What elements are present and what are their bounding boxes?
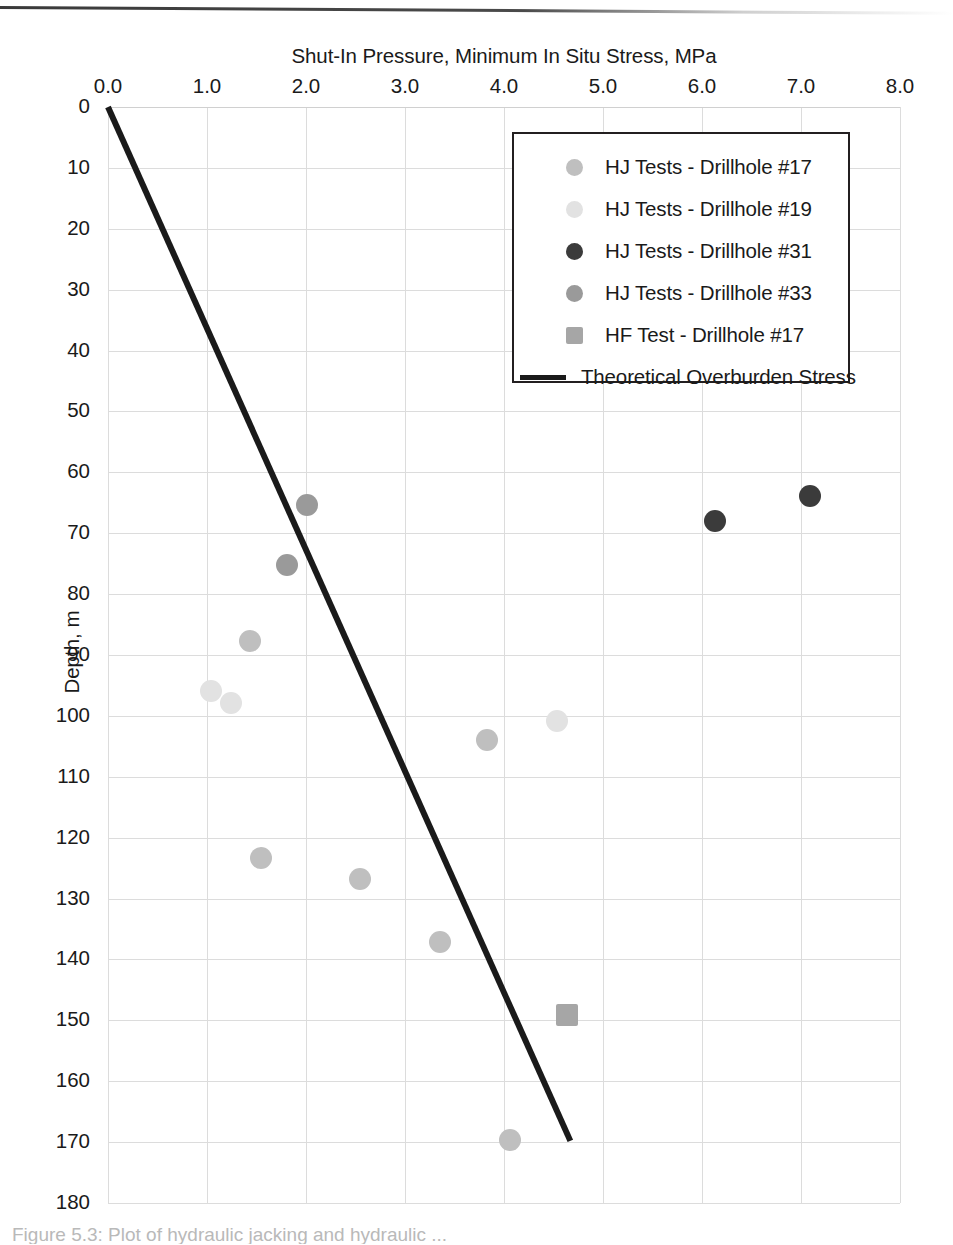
y-tick-label: 70 [16,520,90,544]
legend-item-label: HJ Tests - Drillhole #31 [605,239,812,263]
y-tick-label: 20 [16,216,90,240]
y-tick-label: 60 [16,459,90,483]
x-tick-label: 6.0 [667,74,737,98]
data-point [476,729,498,751]
overburden-stress-polyline [108,107,570,1141]
legend-marker-icon [566,327,583,344]
legend-marker-icon [566,159,583,176]
legend-item-label: HJ Tests - Drillhole #17 [605,155,812,179]
data-point [276,554,298,576]
y-tick-label: 40 [16,338,90,362]
legend-marker-icon [566,201,583,218]
legend-line-icon [520,375,566,380]
legend-marker-icon [566,285,583,302]
legend-item[interactable]: HF Test - Drillhole #17 [514,314,848,356]
data-point [704,510,726,532]
y-tick-label: 150 [16,1007,90,1031]
y-tick-label: 90 [16,642,90,666]
y-tick-label: 80 [16,581,90,605]
y-tick-label: 120 [16,825,90,849]
legend-item-label: HF Test - Drillhole #17 [605,323,804,347]
data-point [799,485,821,507]
x-axis-title: Shut-In Pressure, Minimum In Situ Stress… [108,44,900,68]
legend-item-label: HJ Tests - Drillhole #19 [605,197,812,221]
x-tick-label: 8.0 [865,74,935,98]
y-tick-label: 170 [16,1129,90,1153]
data-point [220,692,242,714]
x-tick-label: 7.0 [766,74,836,98]
x-tick-label: 2.0 [271,74,341,98]
x-tick-label: 4.0 [469,74,539,98]
legend-item[interactable]: HJ Tests - Drillhole #33 [514,272,848,314]
legend: HJ Tests - Drillhole #17HJ Tests - Drill… [512,132,850,383]
legend-item[interactable]: HJ Tests - Drillhole #31 [514,230,848,272]
x-tick-label: 5.0 [568,74,638,98]
legend-item-label: Theoretical Overburden Stress [581,365,856,389]
data-point [556,1004,578,1026]
y-tick-label: 160 [16,1068,90,1092]
y-tick-label: 140 [16,946,90,970]
gridline-vertical [900,107,901,1203]
data-point [200,680,222,702]
y-tick-label: 0 [16,94,90,118]
gridline-horizontal [108,1203,900,1204]
y-tick-label: 180 [16,1190,90,1214]
data-point [499,1129,521,1151]
y-tick-label: 10 [16,155,90,179]
legend-marker-icon [566,243,583,260]
legend-item[interactable]: Theoretical Overburden Stress [514,356,848,398]
data-point [239,630,261,652]
figure-caption: Figure 5.3: Plot of hydraulic jacking an… [12,1224,447,1244]
legend-item[interactable]: HJ Tests - Drillhole #17 [514,146,848,188]
x-tick-label: 3.0 [370,74,440,98]
y-tick-label: 130 [16,886,90,910]
data-point [429,931,451,953]
y-tick-label: 110 [16,764,90,788]
y-tick-label: 30 [16,277,90,301]
y-tick-label: 50 [16,398,90,422]
stress-vs-depth-chart: Shut-In Pressure, Minimum In Situ Stress… [0,0,953,1245]
legend-item-label: HJ Tests - Drillhole #33 [605,281,812,305]
y-tick-label: 100 [16,703,90,727]
legend-item[interactable]: HJ Tests - Drillhole #19 [514,188,848,230]
x-tick-label: 1.0 [172,74,242,98]
